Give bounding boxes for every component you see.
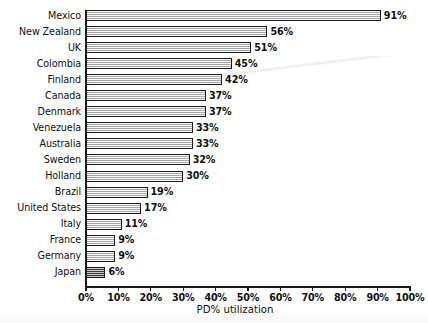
bar-row: 45% [86, 58, 410, 69]
bar-value-new-zealand: 56% [270, 26, 293, 38]
y-axis-category-labels: MexicoNew ZealandUKColombiaFinlandCanada… [0, 10, 81, 285]
x-tick-50pct [247, 286, 248, 291]
bar-value-brazil: 19% [151, 186, 174, 198]
bar-value-denmark: 37% [209, 106, 232, 118]
bar-row: 32% [86, 154, 410, 165]
bar-venezuela [86, 122, 193, 133]
x-tick-90pct [377, 286, 378, 291]
bar-value-mexico: 91% [384, 10, 407, 22]
y-axis-label-holland: Holland [0, 171, 81, 181]
y-axis-label-france: France [0, 235, 81, 245]
x-tick-label-100pct: 100% [390, 292, 428, 303]
bar-france [86, 235, 115, 246]
bar-value-japan: 6% [108, 266, 124, 278]
y-axis-label-germany: Germany [0, 251, 81, 261]
bar-value-sweden: 32% [193, 154, 216, 166]
x-tick-20pct [150, 286, 151, 291]
bar-finland [86, 74, 222, 85]
bar-value-australia: 33% [196, 138, 219, 150]
bar-value-venezuela: 33% [196, 122, 219, 134]
bar-value-holland: 30% [186, 170, 209, 182]
bar-row: 91% [86, 10, 410, 21]
bar-row: 42% [86, 74, 410, 85]
y-axis-label-brazil: Brazil [0, 187, 81, 197]
bar-row: 11% [86, 219, 410, 230]
bar-value-italy: 11% [125, 218, 148, 230]
y-axis-label-sweden: Sweden [0, 155, 81, 165]
bar-value-france: 9% [118, 234, 134, 246]
bar-colombia [86, 58, 232, 69]
x-tick-100pct [409, 286, 410, 291]
bar-denmark [86, 106, 206, 117]
bar-row: 37% [86, 90, 410, 101]
bar-row: 56% [86, 26, 410, 37]
y-axis-label-new-zealand: New Zealand [0, 27, 81, 37]
x-tick-80pct [345, 286, 346, 291]
bar-row: 9% [86, 251, 410, 262]
y-axis-label-mexico: Mexico [0, 11, 81, 21]
y-axis-label-united-states: United States [0, 203, 81, 213]
bar-row: 17% [86, 203, 410, 214]
y-axis-label-denmark: Denmark [0, 107, 81, 117]
plot-area: 91%56%51%45%42%37%37%33%33%32%30%19%17%1… [86, 10, 410, 285]
y-axis-label-colombia: Colombia [0, 59, 81, 69]
bar-mexico [86, 10, 381, 21]
bar-value-colombia: 45% [235, 58, 258, 70]
bar-row: 51% [86, 42, 410, 53]
bar-row: 33% [86, 122, 410, 133]
bar-canada [86, 90, 206, 101]
x-tick-60pct [280, 286, 281, 291]
x-tick-0pct [85, 286, 86, 291]
x-axis-title: PD% utilization [0, 304, 428, 316]
bar-germany [86, 251, 115, 262]
y-axis-label-japan: Japan [0, 267, 81, 277]
bar-new-zealand [86, 26, 267, 37]
bar-row: 30% [86, 171, 410, 182]
bar-uk [86, 42, 251, 53]
bar-row: 6% [86, 267, 410, 278]
x-tick-40pct [215, 286, 216, 291]
bar-value-united-states: 17% [144, 202, 167, 214]
bar-brazil [86, 187, 148, 198]
bar-sweden [86, 154, 190, 165]
bar-row: 33% [86, 138, 410, 149]
y-axis-label-venezuela: Venezuela [0, 123, 81, 133]
bar-italy [86, 219, 122, 230]
bar-japan [86, 267, 105, 278]
bar-row: 9% [86, 235, 410, 246]
y-axis-label-finland: Finland [0, 75, 81, 85]
y-axis-label-australia: Australia [0, 139, 81, 149]
bar-united-states [86, 203, 141, 214]
y-axis-label-italy: Italy [0, 219, 81, 229]
bar-value-uk: 51% [254, 42, 277, 54]
bar-chart: MexicoNew ZealandUKColombiaFinlandCanada… [0, 0, 428, 323]
y-axis-label-canada: Canada [0, 91, 81, 101]
bar-value-germany: 9% [118, 250, 134, 262]
bar-row: 37% [86, 106, 410, 117]
bar-holland [86, 171, 183, 182]
x-tick-70pct [312, 286, 313, 291]
x-tick-10pct [118, 286, 119, 291]
y-axis-label-uk: UK [0, 43, 81, 53]
bar-value-canada: 37% [209, 90, 232, 102]
bar-row: 19% [86, 187, 410, 198]
bar-australia [86, 138, 193, 149]
x-tick-30pct [183, 286, 184, 291]
bar-value-finland: 42% [225, 74, 248, 86]
